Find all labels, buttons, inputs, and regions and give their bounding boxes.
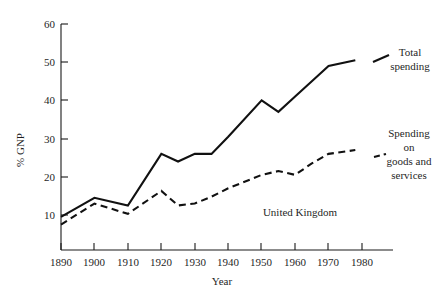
annotation-total-spending-line-2: spending — [390, 60, 430, 72]
y-axis-title: % GNP — [14, 133, 26, 167]
y-tick-label-20: 20 — [44, 171, 56, 183]
leader-line-total-spending — [373, 55, 389, 62]
annotation-country-united-kingdom: United Kingdom — [263, 206, 338, 218]
annotation-total-spending: Total spending — [390, 46, 430, 72]
x-tick-label-1910: 1910 — [117, 256, 140, 268]
annotation-goods-and-services: Spending on goods and services — [387, 127, 432, 181]
y-tick-label-10: 10 — [44, 209, 56, 221]
x-tick-label-1920: 1920 — [150, 256, 173, 268]
y-tick-label-60: 60 — [44, 18, 56, 30]
line-chart-svg: 60 50 40 30 20 10 1890 1900 1910 1920 — [0, 0, 448, 295]
y-tick-label-50: 50 — [44, 56, 56, 68]
y-axis-tick-labels: 60 50 40 30 20 10 — [44, 18, 56, 221]
x-tick-label-1950: 1950 — [250, 256, 273, 268]
annotation-goods-line-3: goods and — [387, 155, 432, 167]
x-axis-ticks — [61, 243, 362, 250]
x-axis-title: Year — [212, 275, 233, 287]
annotation-goods-line-2: on — [404, 141, 416, 153]
x-tick-label-1900: 1900 — [83, 256, 106, 268]
annotation-total-spending-line-1: Total — [399, 46, 421, 58]
x-tick-label-1930: 1930 — [184, 256, 207, 268]
x-tick-label-1970: 1970 — [317, 256, 340, 268]
y-tick-label-40: 40 — [44, 94, 56, 106]
x-axis-tick-labels: 1890 1900 1910 1920 1930 1940 1950 1960 … — [50, 256, 374, 268]
x-tick-label-1940: 1940 — [217, 256, 240, 268]
annotation-goods-line-4: services — [391, 169, 426, 181]
leader-line-goods-and-services — [374, 154, 386, 157]
chart-figure: 60 50 40 30 20 10 1890 1900 1910 1920 — [0, 0, 448, 295]
y-axis-ticks — [61, 24, 68, 215]
x-tick-label-1960: 1960 — [284, 256, 307, 268]
y-tick-label-30: 30 — [44, 133, 56, 145]
x-tick-label-1980: 1980 — [351, 256, 374, 268]
annotation-goods-line-1: Spending — [388, 127, 430, 139]
x-tick-label-1890: 1890 — [50, 256, 73, 268]
series-line-total-spending — [61, 60, 355, 217]
